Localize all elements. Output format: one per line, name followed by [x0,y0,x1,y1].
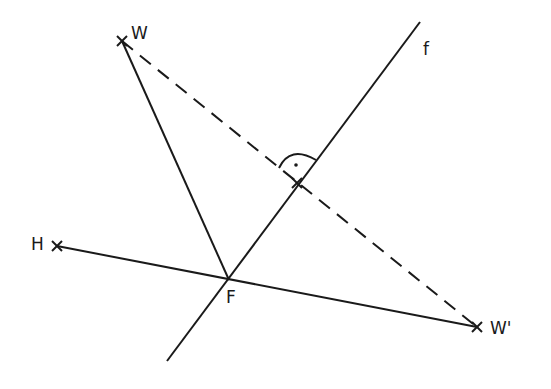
reflection-diagram: W H F W' f [0,0,551,389]
label-h: H [31,234,44,254]
mirror-line-f [167,22,420,361]
segment-w-f [122,41,229,280]
label-w: W [131,23,148,43]
segment-h-wprime [57,246,477,327]
label-line-f: f [423,39,430,59]
label-wprime: W' [490,318,511,338]
cross-marker-w-icon [117,36,127,46]
right-angle-dot-icon [294,163,298,167]
label-f-point: F [226,287,236,307]
